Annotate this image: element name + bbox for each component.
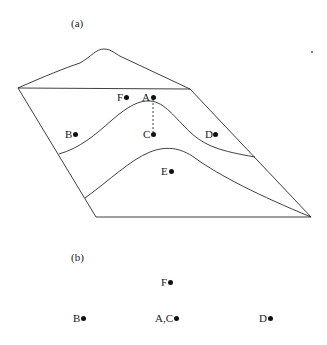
point-b-marker [73, 132, 78, 137]
point-c-marker [151, 132, 156, 137]
point-d-label-a: D [205, 129, 213, 140]
point-d-marker [213, 132, 218, 137]
panel-a-drawing [18, 49, 311, 217]
panel-b-label: (b) [71, 252, 84, 263]
point-a-label-a: A [142, 92, 150, 103]
point-a-marker [151, 95, 156, 100]
right-edge [190, 89, 311, 217]
point-ac-marker-b [174, 316, 179, 321]
point-f-marker-b [168, 280, 173, 285]
point-b-label-a: B [65, 129, 72, 140]
point-f-label-a: F [117, 92, 123, 103]
point-f-label-b: F [161, 277, 167, 288]
point-b-label-b: B [73, 313, 80, 324]
point-d-marker-b [268, 316, 273, 321]
back-hill-curve [18, 49, 190, 89]
lower-ridge-curve [85, 148, 311, 217]
middle-ridge-curve [59, 101, 255, 157]
point-ac-label-b: A,C [155, 313, 173, 324]
scan-speck [311, 51, 313, 53]
point-e-label-a: E [161, 166, 168, 177]
point-d-label-b: D [259, 313, 267, 324]
point-f-marker [124, 95, 129, 100]
point-c-label-a: C [143, 129, 150, 140]
point-e-marker [169, 169, 174, 174]
left-edge [18, 88, 96, 217]
top-edge [18, 88, 190, 89]
panel-a-label: (a) [71, 18, 83, 29]
point-b-marker-b [81, 316, 86, 321]
